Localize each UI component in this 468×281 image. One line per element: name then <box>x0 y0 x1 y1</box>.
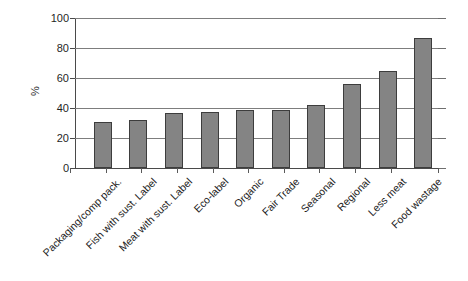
y-axis-tick-right <box>438 108 446 109</box>
y-axis-tick <box>70 78 75 79</box>
gridline <box>75 18 438 19</box>
x-axis-tick <box>355 168 356 173</box>
x-axis-tick <box>284 168 285 173</box>
x-axis-tick <box>141 168 142 173</box>
y-axis-tick-right <box>438 168 446 169</box>
y-axis-tick <box>70 108 75 109</box>
x-axis-tick <box>177 168 178 173</box>
gridline <box>75 48 438 49</box>
x-axis-tick <box>213 168 214 173</box>
bar-chart: % 020406080100 Packaging/comp pack.Fish … <box>0 0 468 281</box>
bar <box>94 122 112 169</box>
x-axis-tick <box>248 168 249 173</box>
y-axis-tick-right <box>438 138 446 139</box>
y-axis-tick-right <box>438 78 446 79</box>
y-axis-tick-right <box>438 18 446 19</box>
bar <box>272 110 290 169</box>
y-axis-tick <box>70 18 75 19</box>
bar <box>201 112 219 168</box>
bar <box>165 113 183 169</box>
x-axis-tick-label: Seasonal <box>298 176 336 214</box>
x-axis-tick <box>438 168 439 173</box>
x-axis-line <box>75 168 439 169</box>
x-axis-tick <box>70 168 71 173</box>
y-axis-tick-label: 80 <box>35 43 69 54</box>
y-axis-tick-label: 20 <box>35 133 69 144</box>
bar <box>343 84 361 168</box>
bar <box>129 120 147 168</box>
bar <box>379 71 397 169</box>
x-axis-tick-label: Fair Trade <box>260 176 301 217</box>
bar <box>236 110 254 169</box>
y-axis-tick-right <box>438 48 446 49</box>
bar <box>414 38 432 168</box>
x-axis-tick <box>391 168 392 173</box>
bar <box>307 105 325 168</box>
y-axis-tick <box>70 138 75 139</box>
x-axis-tick-label: Organic <box>232 176 265 209</box>
x-axis-tick <box>106 168 107 173</box>
x-axis-tick-label: Meat with sust. Label <box>117 176 194 253</box>
x-axis-tick <box>319 168 320 173</box>
y-axis-tick-label: 0 <box>35 163 69 174</box>
plot-area: 020406080100 <box>75 18 438 168</box>
y-axis-tick-label: 40 <box>35 103 69 114</box>
y-axis-tick <box>70 48 75 49</box>
x-axis-tick-label: Eco-label <box>192 176 230 214</box>
y-axis-tick-label: 60 <box>35 73 69 84</box>
y-axis-tick-label: 100 <box>35 13 69 24</box>
